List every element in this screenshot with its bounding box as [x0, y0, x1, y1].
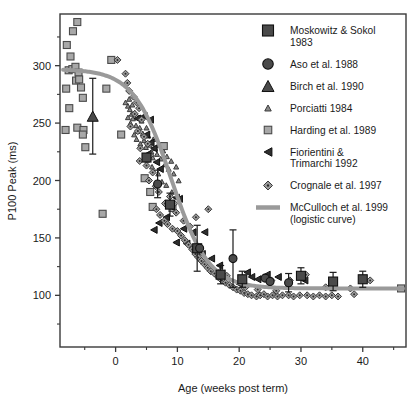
x-tick-label: 40: [357, 355, 369, 367]
data-point: [285, 279, 293, 287]
y-axis-label: P100 Peak (ms): [6, 142, 18, 221]
data-point: [69, 28, 76, 35]
data-point: [154, 180, 162, 188]
data-point: [63, 42, 70, 49]
y-tick-label: 150: [33, 232, 51, 244]
data-point: [76, 76, 83, 83]
y-tick-label: 250: [33, 117, 51, 129]
y-tick-label: 300: [33, 60, 51, 72]
legend-label: Trimarchi 1992: [290, 158, 358, 169]
legend-marker-circle-large: [263, 59, 274, 70]
data-point: [66, 105, 73, 112]
data-point: [196, 244, 204, 252]
legend-marker-square-small: [264, 126, 272, 134]
data-point: [216, 270, 225, 279]
data-point: [266, 278, 274, 286]
data-point: [67, 53, 74, 60]
data-point: [329, 277, 338, 286]
data-point: [238, 275, 247, 284]
data-point: [74, 19, 81, 26]
legend-marker-square-large: [263, 25, 274, 36]
legend-label: Porciatti 1984: [290, 103, 353, 114]
data-point: [165, 200, 174, 209]
x-tick-label: 30: [295, 355, 307, 367]
legend-label: Birch et al. 1990: [290, 81, 364, 92]
y-tick-label: 200: [33, 175, 51, 187]
legend-label: McCulloch et al. 1999: [290, 202, 388, 213]
legend-label: Fiorientini &: [290, 147, 344, 158]
x-tick-label: 20: [233, 355, 245, 367]
figure-container: 100150200250300 010203040 Moskowitz & So…: [0, 0, 416, 406]
data-point: [79, 94, 86, 101]
x-tick-label: 10: [171, 355, 183, 367]
data-point: [78, 84, 85, 91]
p100-peak-scatter-chart: 100150200250300 010203040 Moskowitz & So…: [0, 0, 416, 406]
data-point: [63, 85, 70, 92]
data-point: [62, 126, 69, 133]
legend-label: Crognale et al. 1997: [290, 180, 382, 191]
data-point: [229, 255, 237, 263]
data-point: [358, 275, 367, 284]
data-point: [99, 210, 106, 217]
x-axis-label: Age (weeks post term): [178, 382, 288, 394]
y-tick-label: 100: [33, 289, 51, 301]
legend-label: 1983: [290, 37, 313, 48]
data-point: [147, 188, 154, 195]
data-point: [79, 131, 86, 138]
data-point: [82, 144, 89, 151]
legend-label: Moskowitz & Sokol: [290, 25, 376, 36]
legend-label: Aso et al. 1988: [290, 59, 358, 70]
data-point: [103, 85, 110, 92]
data-point: [296, 271, 305, 280]
data-point: [118, 131, 125, 138]
legend-label: Harding et al. 1989: [290, 125, 376, 136]
x-tick-label: 0: [113, 355, 119, 367]
legend-label: (logistic curve): [290, 214, 356, 225]
data-point: [142, 153, 151, 162]
